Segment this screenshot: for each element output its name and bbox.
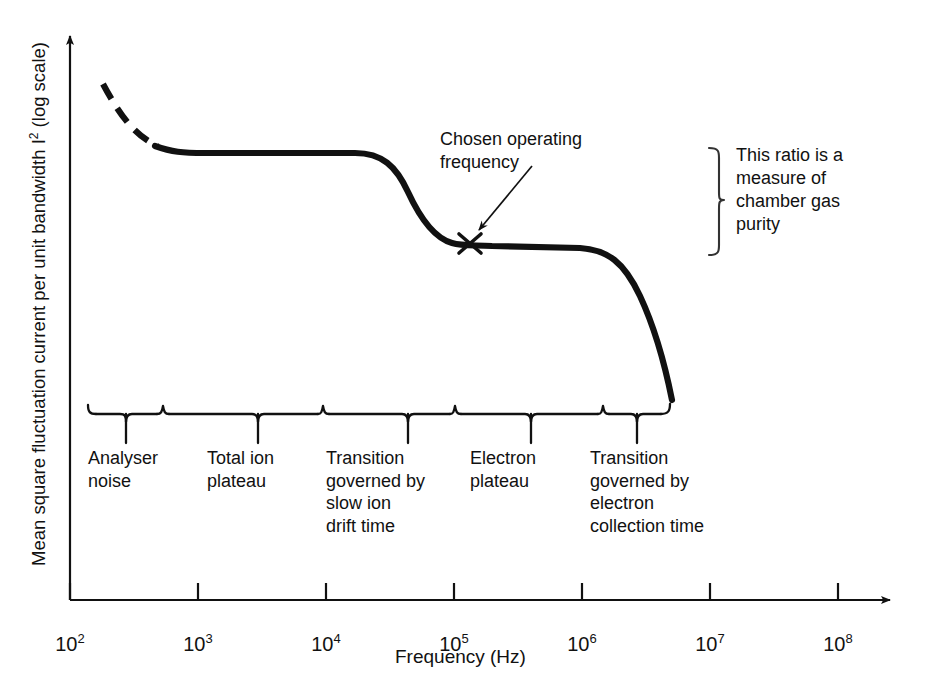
- tick-base: 10: [55, 633, 77, 655]
- x-axis: [70, 583, 890, 600]
- x-tick-label-1e8: 108: [803, 608, 873, 657]
- x-axis-ticks: [70, 583, 838, 600]
- tick-base: 10: [567, 633, 589, 655]
- operating-frequency-leader-arrow: [479, 166, 532, 230]
- ratio-note-annotation: This ratio is a measure of chamber gas p…: [736, 144, 843, 235]
- bracket-label-total-ion-plateau: Total ion plateau: [207, 447, 274, 492]
- chart-canvas: [0, 0, 929, 678]
- bracket-label-electron-plateau: Electron plateau: [470, 447, 536, 492]
- x-axis-title: Frequency (Hz): [395, 645, 526, 668]
- curve-solid-segment: [155, 146, 672, 400]
- bracket-label-analyser-noise: Analyser noise: [88, 447, 158, 492]
- tick-exponent: 6: [590, 632, 597, 647]
- y-axis-title-prefix: Mean square fluctuation current per unit…: [28, 139, 49, 566]
- tick-exponent: 7: [718, 632, 725, 647]
- region-brackets: [88, 404, 670, 443]
- x-tick-label-1e3: 103: [163, 608, 233, 657]
- tick-base: 10: [183, 633, 205, 655]
- figure-root: Mean square fluctuation current per unit…: [0, 0, 929, 678]
- tick-base: 10: [695, 633, 717, 655]
- ratio-bracket: [709, 148, 724, 255]
- tick-base: 10: [823, 633, 845, 655]
- bracket-label-electron-collection-transition: Transition governed by electron collecti…: [590, 447, 704, 538]
- tick-exponent: 4: [334, 632, 341, 647]
- x-tick-label-1e4: 104: [291, 608, 361, 657]
- y-axis-title: Mean square fluctuation current per unit…: [28, 42, 51, 566]
- y-axis-title-suffix: (log scale): [28, 42, 49, 132]
- x-tick-label-1e2: 102: [35, 608, 105, 657]
- operating-frequency-annotation: Chosen operating frequency: [440, 128, 582, 174]
- tick-base: 10: [311, 633, 333, 655]
- x-tick-label-1e7: 107: [675, 608, 745, 657]
- tick-exponent: 3: [206, 632, 213, 647]
- y-axis-title-exponent: 2: [27, 133, 41, 140]
- tick-exponent: 8: [846, 632, 853, 647]
- tick-exponent: 2: [78, 632, 85, 647]
- x-tick-label-1e6: 106: [547, 608, 617, 657]
- curve-dashed-segment: [103, 84, 158, 146]
- bracket-label-slow-ion-drift-transition: Transition governed by slow ion drift ti…: [326, 447, 425, 538]
